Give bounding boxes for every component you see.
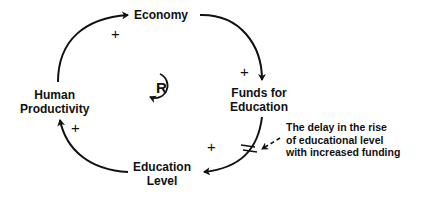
annotation-line1: The delay in the rise	[286, 121, 400, 134]
link-economy-funds	[200, 15, 262, 80]
node-funds-for-education: Funds for Education	[230, 86, 288, 114]
delay-mark	[243, 150, 257, 152]
polarity-sign-funds-education: +	[207, 139, 216, 154]
node-education-level: Education Level	[133, 160, 191, 188]
node-funds-line2: Education	[230, 100, 288, 114]
node-funds-line1: Funds for	[230, 86, 288, 100]
causal-loop-diagram: Economy Funds for Education Education Le…	[0, 0, 425, 197]
polarity-sign-economy-funds: +	[240, 64, 249, 79]
node-human-productivity: Human Productivity	[20, 88, 89, 116]
node-education-line2: Level	[133, 174, 191, 188]
annotation-line2: of educational level	[286, 134, 400, 147]
delay-annotation: The delay in the rise of educational lev…	[286, 121, 400, 159]
annotation-line3: with increased funding	[286, 146, 400, 159]
reinforcing-loop-label: R	[156, 80, 167, 95]
node-economy: Economy	[134, 8, 188, 22]
polarity-sign-productivity-economy: +	[111, 26, 120, 41]
node-productivity-line2: Productivity	[20, 102, 89, 116]
annotation-pointer	[262, 138, 280, 149]
node-education-line1: Education	[133, 160, 191, 174]
polarity-sign-education-productivity: +	[71, 120, 80, 135]
node-productivity-line1: Human	[20, 88, 89, 102]
